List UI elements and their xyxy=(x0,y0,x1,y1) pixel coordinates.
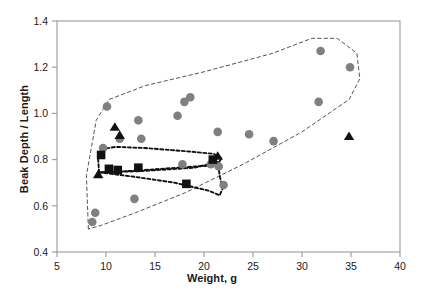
x-tick-label: 5 xyxy=(54,260,60,272)
data-point-circle xyxy=(346,63,355,72)
plot-canvas: 5101520253035400.40.60.81.01.21.4 xyxy=(0,0,424,295)
y-tick-label: 1.4 xyxy=(33,15,48,27)
data-point-circle xyxy=(316,47,325,56)
data-point-circle xyxy=(178,160,187,169)
y-tick-label: 1.2 xyxy=(33,61,48,73)
data-point-circle xyxy=(103,102,112,111)
y-tick-label: 0.4 xyxy=(33,246,48,258)
x-tick-label: 10 xyxy=(100,260,112,272)
data-point-triangle xyxy=(110,122,120,131)
data-point-circle xyxy=(314,98,323,107)
data-point-circle xyxy=(219,181,228,190)
x-tick-label: 25 xyxy=(247,260,259,272)
y-tick-label: 1.0 xyxy=(33,107,48,119)
x-tick-label: 15 xyxy=(149,260,161,272)
data-point-circle xyxy=(213,128,222,137)
x-tick-label: 20 xyxy=(198,260,210,272)
scatter-chart-figure: Beak Depth / Length Weight, g 5101520253… xyxy=(0,0,424,295)
data-point-circle xyxy=(245,130,254,139)
x-tick-label: 30 xyxy=(296,260,308,272)
data-point-triangle xyxy=(115,130,125,139)
hull-outlines xyxy=(86,38,359,229)
data-points xyxy=(88,47,354,227)
y-tick-label: 0.6 xyxy=(33,200,48,212)
y-tick-label: 0.8 xyxy=(33,153,48,165)
x-tick-label: 35 xyxy=(345,260,357,272)
hull-outer-hull xyxy=(86,38,359,229)
data-point-triangle xyxy=(344,132,354,141)
data-point-circle xyxy=(269,137,278,146)
data-point-circle xyxy=(173,111,182,120)
data-point-square xyxy=(97,151,106,160)
data-point-circle xyxy=(91,208,100,217)
data-point-circle xyxy=(134,116,143,125)
data-point-square xyxy=(182,180,191,189)
data-point-circle xyxy=(186,93,195,102)
x-tick-label: 40 xyxy=(394,260,406,272)
data-point-circle xyxy=(137,135,146,144)
data-point-triangle xyxy=(93,170,103,179)
data-point-circle xyxy=(130,195,139,204)
data-point-square xyxy=(134,163,143,172)
data-point-circle xyxy=(88,218,97,227)
data-point-square xyxy=(113,166,122,175)
axis-tick-labels: 5101520253035400.40.60.81.01.21.4 xyxy=(33,15,406,272)
data-point-square xyxy=(105,165,114,174)
